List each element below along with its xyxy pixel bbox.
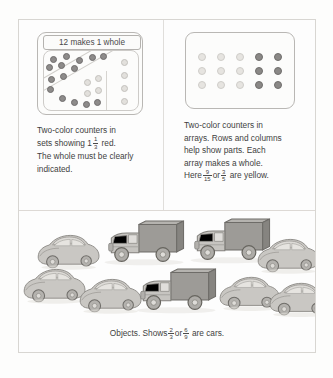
- object-car: [38, 235, 99, 269]
- objects-caption-or: or: [175, 328, 182, 338]
- sets-caption-line2-pre: sets showing: [37, 138, 85, 148]
- counter-red: [47, 86, 54, 93]
- counter-red: [60, 73, 67, 80]
- fraction-numerator: 6: [183, 327, 188, 334]
- sets-fraction-one-third: 13: [93, 136, 98, 150]
- arrays-caption-line2: arrays. Rows and columns: [184, 133, 282, 143]
- counter-red: [94, 99, 101, 106]
- fraction-denominator: 3: [168, 334, 173, 340]
- counter-yellow: [84, 90, 91, 97]
- cell-arrays: Two-color counters in arrays. Rows and c…: [164, 20, 315, 210]
- fraction-denominator: 9: [183, 334, 188, 340]
- sets-illustration-box: 12 makes 1 whole: [37, 32, 143, 115]
- arrays-fraction-three-fifths: 35: [221, 169, 226, 183]
- array-counter-red: [274, 53, 282, 61]
- counter-red: [83, 101, 90, 108]
- figure-page: 12 makes 1 whole: [0, 0, 333, 378]
- cell-sets: 12 makes 1 whole: [19, 20, 163, 210]
- counter-red: [50, 56, 57, 63]
- counter-red: [89, 54, 96, 61]
- sets-mixed-whole: 1: [87, 138, 92, 148]
- counter-red: [100, 53, 107, 60]
- array-counter-red: [274, 67, 282, 75]
- object-car: [80, 279, 141, 313]
- array-counter-red: [255, 67, 263, 75]
- objects-fraction-two-thirds: 23: [168, 327, 173, 341]
- sets-caption-line2-post: red.: [102, 138, 116, 148]
- array-counter-yellow: [217, 53, 225, 61]
- arrays-fraction-nine-fifteenths: 915: [203, 169, 212, 183]
- array-counter-yellow: [198, 81, 206, 89]
- array-illustration-box: [185, 32, 295, 109]
- sets-box-label: 12 makes 1 whole: [43, 35, 141, 50]
- array-counter-red: [255, 53, 263, 61]
- counter-red: [76, 57, 83, 64]
- arrays-caption-or: or: [213, 170, 220, 180]
- fraction-denominator: 15: [203, 176, 212, 182]
- fraction-numerator: 1: [93, 136, 98, 143]
- arrays-caption-line3: help show parts. Each: [184, 145, 266, 155]
- objects-fraction-six-ninths: 69: [183, 327, 188, 341]
- fraction-numerator: 3: [221, 169, 226, 176]
- counter-red: [63, 53, 70, 60]
- array-counter-yellow: [217, 67, 225, 75]
- object-truck: [190, 219, 269, 263]
- vehicle-illustration: [19, 211, 315, 327]
- counter-yellow: [121, 98, 128, 105]
- objects-caption-pre: Objects. Shows: [110, 328, 168, 338]
- counter-red: [59, 95, 66, 102]
- sets-caption-line3: The whole must be clearly: [37, 151, 133, 161]
- array-counter-yellow: [198, 67, 206, 75]
- vehicles-svg: [19, 211, 315, 327]
- arrays-caption: Two-color counters in arrays. Rows and c…: [184, 119, 324, 183]
- counter-yellow: [95, 87, 102, 94]
- sets-vertical-separator: [106, 71, 107, 111]
- sets-caption-line4: indicated.: [37, 164, 73, 174]
- array-counter-red: [274, 81, 282, 89]
- array-counter-yellow: [236, 67, 244, 75]
- counter-yellow: [121, 59, 128, 66]
- fraction-numerator: 2: [168, 327, 173, 334]
- counter-red: [71, 99, 78, 106]
- counter-red: [48, 76, 55, 83]
- sets-caption-line1: Two-color counters in: [37, 125, 116, 135]
- fraction-denominator: 3: [93, 144, 98, 150]
- counter-yellow: [84, 79, 91, 86]
- counter-red: [71, 65, 78, 72]
- objects-caption-post: are cars.: [192, 328, 224, 338]
- arrays-caption-line4: array makes a whole.: [184, 158, 263, 168]
- counter-red: [58, 62, 65, 69]
- objects-caption: Objects. Shows23or69 are cars.: [19, 327, 315, 341]
- object-truck: [104, 221, 183, 265]
- counter-yellow: [95, 75, 102, 82]
- cell-objects: Objects. Shows23or69 are cars.: [19, 211, 315, 352]
- counter-red: [46, 64, 53, 71]
- fraction-numerator: 9: [203, 169, 212, 176]
- array-counter-yellow: [217, 81, 225, 89]
- arrays-caption-line5-post: are yellow.: [230, 170, 269, 180]
- arrays-caption-line1: Two-color counters in: [184, 120, 263, 130]
- sets-caption: Two-color counters in sets showing 113 r…: [37, 124, 171, 176]
- object-car: [24, 269, 85, 303]
- object-car: [270, 283, 315, 317]
- array-counter-yellow: [236, 53, 244, 61]
- array-counter-red: [255, 81, 263, 89]
- array-counter-yellow: [236, 81, 244, 89]
- counter-yellow: [121, 85, 128, 92]
- object-truck: [136, 269, 215, 313]
- sets-whole-outline: [43, 50, 139, 111]
- counter-yellow: [121, 72, 128, 79]
- fraction-denominator: 5: [221, 176, 226, 182]
- array-counter-yellow: [198, 53, 206, 61]
- arrays-caption-line5-pre: Here: [184, 170, 202, 180]
